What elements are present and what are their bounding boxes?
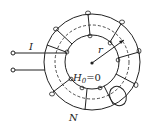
lead-wires <box>11 51 66 72</box>
toroid-diagram: I r H0=0 N <box>0 0 149 128</box>
radius-label: r <box>98 44 104 55</box>
center-point <box>90 61 93 64</box>
turns-label: N <box>68 112 79 123</box>
field-label: H0=0 <box>72 72 101 85</box>
current-label: I <box>28 41 34 52</box>
turn-cross-section <box>107 84 130 109</box>
